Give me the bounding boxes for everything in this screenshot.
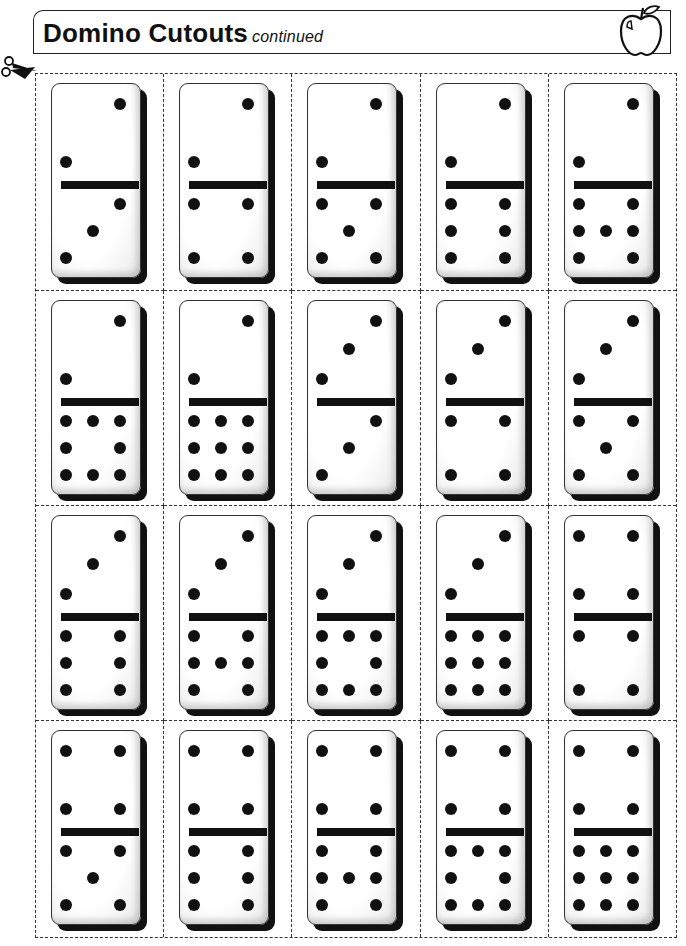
domino-divider (61, 398, 139, 406)
domino-pip (472, 657, 484, 669)
domino-pip (188, 657, 200, 669)
domino-pip (60, 415, 72, 427)
domino-tile (307, 515, 397, 710)
domino-pip (87, 558, 99, 570)
domino-divider (574, 398, 652, 406)
domino-pip (627, 684, 639, 696)
domino-pip (370, 845, 382, 857)
domino-pip (242, 684, 254, 696)
domino-pip (114, 684, 126, 696)
domino-pip (627, 845, 639, 857)
domino-divider (574, 613, 652, 621)
domino-pip (114, 415, 126, 427)
domino-pip (188, 469, 200, 481)
domino-pip (188, 872, 200, 884)
domino-pip (627, 899, 639, 911)
domino-cutout-cell (36, 506, 164, 721)
domino-pip (573, 373, 585, 385)
domino-pip (114, 845, 126, 857)
domino-tile (307, 730, 397, 925)
domino-cutout-cell (164, 74, 292, 291)
domino-pip (499, 745, 511, 757)
domino-pip (188, 745, 200, 757)
domino-pip (499, 803, 511, 815)
domino-pip (499, 684, 511, 696)
domino-pip (188, 588, 200, 600)
domino-pip (370, 198, 382, 210)
domino-pip (370, 415, 382, 427)
domino-pip (499, 899, 511, 911)
domino-pip (573, 630, 585, 642)
domino-pip (343, 872, 355, 884)
domino-pip (242, 630, 254, 642)
domino-pip (316, 899, 328, 911)
domino-pip (316, 630, 328, 642)
domino-pip (499, 415, 511, 427)
domino-pip (114, 198, 126, 210)
domino-pip (242, 415, 254, 427)
domino-tile (564, 515, 654, 710)
domino-pip (188, 630, 200, 642)
domino-tile (307, 83, 397, 278)
domino-pip (60, 442, 72, 454)
domino-tile (51, 730, 141, 925)
domino-pip (472, 558, 484, 570)
domino-cutout-cell (164, 721, 292, 937)
domino-pip (445, 588, 457, 600)
domino-pip (445, 252, 457, 264)
domino-cutout-cell (549, 506, 676, 721)
domino-pip (114, 442, 126, 454)
domino-pip (445, 198, 457, 210)
domino-tile (307, 300, 397, 495)
domino-pip (573, 469, 585, 481)
domino-pip (343, 630, 355, 642)
domino-pip (114, 803, 126, 815)
domino-pip (242, 442, 254, 454)
domino-divider (189, 828, 267, 836)
domino-pip (370, 803, 382, 815)
domino-pip (472, 343, 484, 355)
domino-pip (215, 469, 227, 481)
domino-pip (370, 872, 382, 884)
domino-tile (179, 515, 269, 710)
domino-divider (446, 181, 524, 189)
domino-pip (316, 657, 328, 669)
domino-pip (627, 225, 639, 237)
domino-cutout-grid (35, 73, 677, 938)
domino-pip (87, 225, 99, 237)
domino-tile (51, 515, 141, 710)
domino-pip (600, 343, 612, 355)
domino-pip (215, 442, 227, 454)
domino-pip (188, 803, 200, 815)
domino-pip (370, 684, 382, 696)
domino-pip (627, 745, 639, 757)
apple-icon (613, 3, 669, 59)
domino-divider (446, 398, 524, 406)
domino-pip (316, 198, 328, 210)
domino-pip (114, 745, 126, 757)
domino-pip (573, 225, 585, 237)
domino-pip (242, 530, 254, 542)
domino-pip (60, 373, 72, 385)
domino-pip (627, 872, 639, 884)
domino-pip (573, 198, 585, 210)
domino-cutout-cell (421, 506, 549, 721)
domino-pip (343, 343, 355, 355)
domino-divider (317, 398, 395, 406)
domino-pip (188, 252, 200, 264)
domino-divider (317, 181, 395, 189)
domino-pip (87, 872, 99, 884)
domino-pip (472, 899, 484, 911)
domino-pip (242, 745, 254, 757)
domino-pip (445, 657, 457, 669)
domino-pip (445, 225, 457, 237)
title-subtitle: continued (252, 28, 323, 45)
domino-pip (242, 198, 254, 210)
domino-pip (114, 469, 126, 481)
domino-pip (60, 684, 72, 696)
domino-cutout-cell (36, 291, 164, 506)
domino-pip (445, 156, 457, 168)
domino-pip (60, 469, 72, 481)
domino-pip (242, 845, 254, 857)
domino-cutout-cell (164, 506, 292, 721)
